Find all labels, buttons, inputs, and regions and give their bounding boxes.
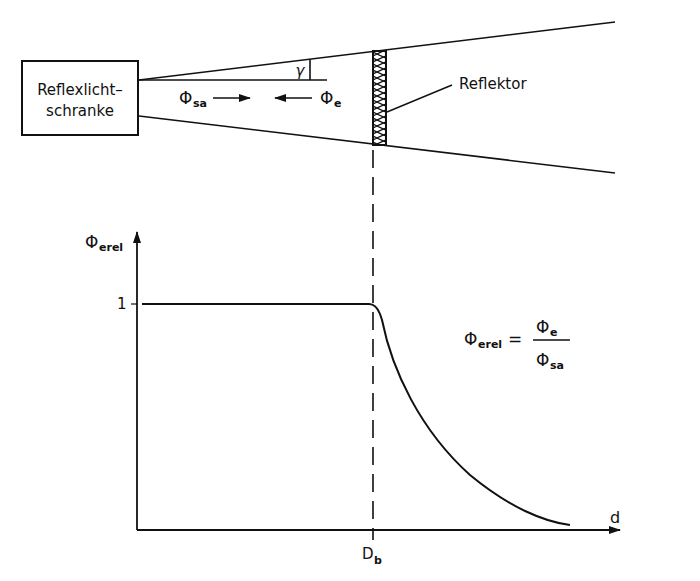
svg-text:Φ: Φ (179, 88, 192, 108)
svg-text:Φ: Φ (536, 317, 549, 337)
svg-text:e: e (550, 326, 557, 339)
formula: Φ erel = Φ e Φ sa (464, 317, 570, 372)
sensor-label-line1: Reflexlicht– (37, 81, 123, 99)
chart-axes (137, 232, 620, 530)
svg-text:e: e (334, 97, 341, 110)
x-tick-db: D b (362, 545, 382, 567)
svg-text:erel: erel (99, 241, 123, 254)
x-axis-label: d (610, 508, 620, 527)
sensor-box: Reflexlicht– schranke (22, 61, 138, 135)
y-tick-1: 1 (117, 295, 127, 313)
svg-text:D: D (362, 545, 374, 563)
y-axis-label: Φ erel (85, 232, 123, 254)
svg-text:sa: sa (193, 97, 207, 110)
emitted-flux-label: Φ sa (179, 88, 207, 110)
svg-text:Φ: Φ (464, 329, 477, 349)
reflector-label: Reflektor (459, 75, 527, 93)
svg-text:Φ: Φ (320, 88, 333, 108)
svg-text:=: = (508, 329, 522, 349)
received-flux-label: Φ e (320, 88, 341, 110)
svg-text:Φ: Φ (536, 350, 549, 370)
svg-text:erel: erel (478, 338, 502, 351)
svg-text:Φ: Φ (85, 232, 98, 252)
sensor-label-line2: schranke (46, 102, 114, 120)
reflector-leader-line (387, 85, 452, 112)
svg-text:sa: sa (550, 359, 564, 372)
reflex-light-barrier-diagram: Reflexlicht– schranke γ Φ sa Φ e Reflekt… (0, 0, 700, 581)
svg-text:b: b (374, 554, 382, 567)
angle-gamma-label: γ (296, 62, 306, 80)
reflector: Reflektor (373, 51, 527, 145)
relative-flux-curve (142, 304, 570, 525)
